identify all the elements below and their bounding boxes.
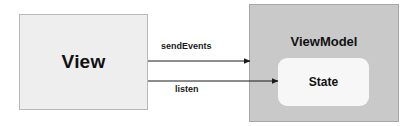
diagram-canvas: View ViewModel State sendEvents listen xyxy=(0,0,414,126)
node-state-label: State xyxy=(309,75,338,89)
node-view[interactable]: View xyxy=(19,14,148,110)
node-viewmodel[interactable]: ViewModel State xyxy=(249,4,399,122)
node-viewmodel-label: ViewModel xyxy=(250,34,398,49)
edge-label-listen: listen xyxy=(175,84,199,94)
edge-label-send-events: sendEvents xyxy=(161,41,212,51)
node-view-label: View xyxy=(62,51,106,73)
node-state[interactable]: State xyxy=(278,58,369,106)
